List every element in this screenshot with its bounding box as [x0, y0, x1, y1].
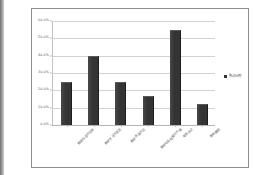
- x-tick-mark: [148, 125, 149, 127]
- bar[interactable]: [88, 56, 99, 125]
- x-tick-label: 其他原因: [210, 128, 222, 140]
- bar[interactable]: [170, 30, 181, 125]
- y-tick-label: 60.0%: [38, 19, 49, 22]
- bar[interactable]: [61, 82, 72, 125]
- document-page: 60.0%50.0%40.0%30.0%20.0%10.0%0.0% 教学内容不…: [7, 0, 253, 175]
- bar[interactable]: [115, 82, 126, 125]
- y-tick-mark: [50, 21, 52, 22]
- bar-slot: [170, 21, 181, 125]
- y-tick-label: 20.0%: [38, 89, 49, 92]
- legend-label: 所占比例: [229, 75, 242, 78]
- x-tick-mark: [175, 125, 176, 127]
- x-tick-label: 教学与实践脱节不够: [160, 128, 183, 151]
- bar-series: [53, 21, 215, 125]
- y-tick-mark: [50, 90, 52, 91]
- y-tick-mark: [50, 38, 52, 39]
- x-tick-mark: [202, 125, 203, 127]
- y-tick-label: 30.0%: [38, 71, 49, 74]
- y-tick-label: 0.0%: [40, 123, 49, 126]
- bar-slot: [197, 21, 208, 125]
- bar-slot: [88, 21, 99, 125]
- bar[interactable]: [143, 96, 154, 125]
- y-tick-label: 50.0%: [38, 37, 49, 40]
- y-tick-mark: [50, 55, 52, 56]
- chart-legend: 所占比例: [224, 75, 241, 78]
- chart-container: 60.0%50.0%40.0%30.0%20.0%10.0%0.0% 教学内容不…: [31, 8, 249, 168]
- y-tick-mark: [50, 107, 52, 108]
- legend-swatch: [224, 75, 227, 78]
- plot-area: 60.0%50.0%40.0%30.0%20.0%10.0%0.0% 教学内容不…: [52, 21, 215, 125]
- bar-slot: [61, 21, 72, 125]
- x-tick-mark: [121, 125, 122, 127]
- bar-slot: [143, 21, 154, 125]
- x-tick-label: 教学内容不实用: [77, 128, 95, 146]
- y-tick-mark: [50, 73, 52, 74]
- y-tick-label: 10.0%: [38, 106, 49, 109]
- x-tick-mark: [94, 125, 95, 127]
- bar[interactable]: [197, 104, 208, 125]
- bar-slot: [115, 21, 126, 125]
- x-tick-label: 教学方法不灵活: [104, 128, 122, 146]
- x-tick-label: 考核方式: [183, 128, 195, 140]
- x-tick-label: 教学资源不足: [130, 128, 146, 144]
- y-tick-label: 40.0%: [38, 54, 49, 57]
- x-tick-mark: [67, 125, 68, 127]
- y-tick-mark: [50, 125, 52, 126]
